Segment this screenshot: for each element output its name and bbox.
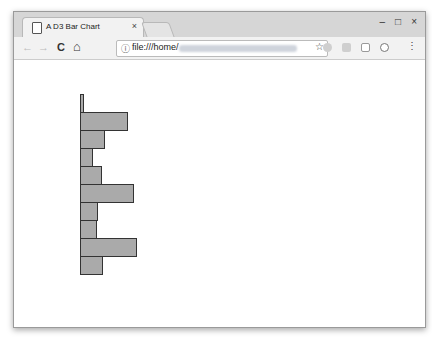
document-icon [32,22,42,34]
bar-1 [80,94,84,113]
bar-8 [80,220,97,239]
bar-7 [80,202,98,221]
extension-icon-2[interactable] [342,43,351,52]
title-bar: A D3 Bar Chart × – □ × [14,12,425,37]
forward-icon[interactable]: → [38,41,49,53]
reload-icon[interactable]: C [57,41,65,53]
tab-title: A D3 Bar Chart [46,22,100,31]
tab-close-icon[interactable]: × [132,21,137,31]
info-icon[interactable]: ⓘ [121,42,130,55]
extension-icon-4[interactable] [380,43,389,52]
extension-icon-3[interactable] [361,43,370,52]
bar-10 [80,256,103,275]
close-window-icon[interactable]: × [411,16,417,27]
browser-window: A D3 Bar Chart × – □ × ← → C ⌂ ⓘ file://… [13,11,426,328]
bar-2 [80,112,128,131]
bar-9 [80,238,137,257]
minimize-icon[interactable]: – [379,16,385,27]
page-content [14,60,425,327]
address-bar[interactable]: ⓘ file:///home/ ☆ [116,40,328,57]
bar-6 [80,184,134,203]
maximize-icon[interactable]: □ [395,16,401,27]
new-tab-button[interactable] [141,22,175,38]
bar-5 [80,166,102,185]
bar-3 [80,130,105,149]
url-text: file:///home/ [132,42,179,52]
extension-icon-1[interactable] [323,43,332,52]
bar-4 [80,148,93,167]
url-blurred [179,45,297,52]
home-icon[interactable]: ⌂ [73,39,81,54]
menu-icon[interactable]: ⋮ [407,40,417,51]
back-icon[interactable]: ← [22,41,33,53]
tab-active[interactable]: A D3 Bar Chart × [22,17,144,38]
browser-toolbar: ← → C ⌂ ⓘ file:///home/ ☆ ⋮ [14,37,425,60]
